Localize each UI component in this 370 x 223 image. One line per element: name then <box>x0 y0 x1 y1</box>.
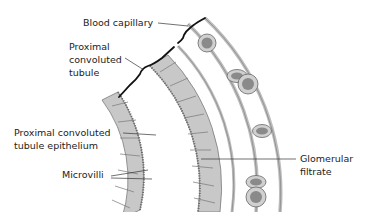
outer-epithelium-band <box>150 55 222 212</box>
inner-epithelium-band <box>102 92 144 218</box>
label-pct-epithelium: Proximal convoluted tubule epithelium <box>14 126 111 152</box>
label-proximal-convoluted-tubule: Proximal convoluted tubule <box>69 40 122 79</box>
label-glomerular-filtrate: Glomerular filtrate <box>300 152 353 178</box>
label-microvilli: Microvilli <box>62 168 104 181</box>
pct-diagram <box>0 0 370 223</box>
label-blood-capillary: Blood capillary <box>83 16 153 29</box>
